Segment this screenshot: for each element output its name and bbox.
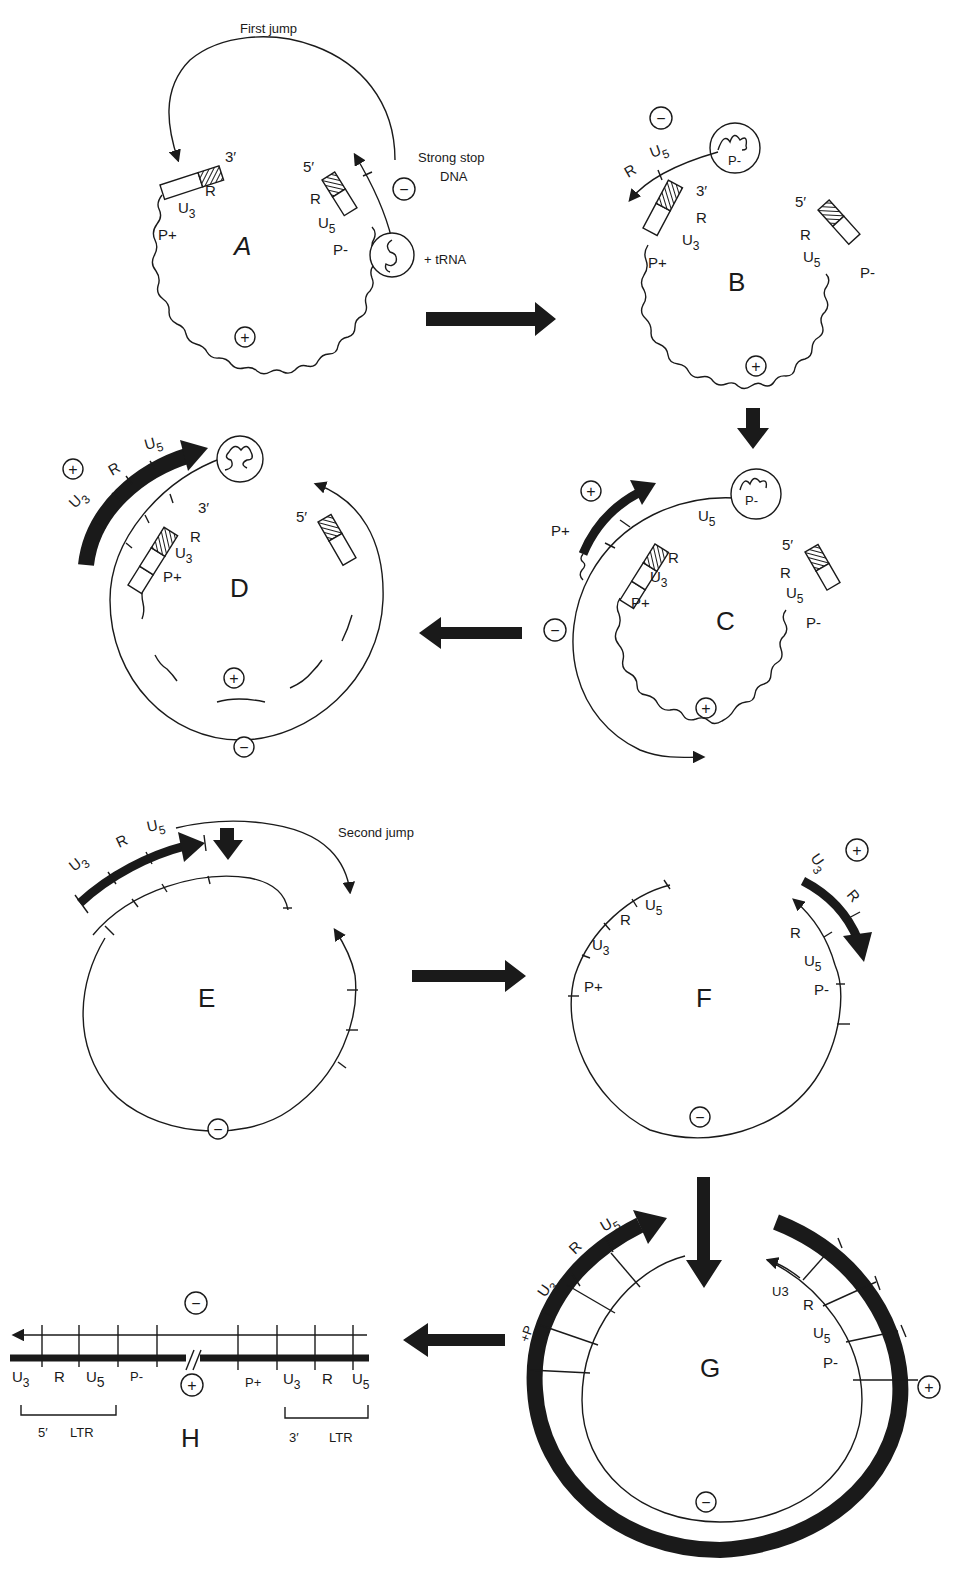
plus-sign-icon: +	[918, 1376, 940, 1398]
five-prime-ltr-bracket	[21, 1405, 116, 1415]
label-u3: U3	[65, 850, 93, 878]
label-r-right-thick: R	[844, 886, 864, 905]
label-5prime: 5′	[303, 158, 314, 175]
strong-stop-dna-strand	[355, 155, 392, 240]
minus-strand-dna	[573, 498, 735, 758]
panel-letter-e: E	[198, 983, 215, 1013]
plus-sign-icon: +	[746, 356, 766, 376]
label-r-right: R	[310, 190, 321, 207]
svg-text:−: −	[656, 110, 665, 127]
minus-sign-icon: −	[690, 1107, 710, 1127]
rna-fragment	[290, 660, 322, 688]
svg-text:+: +	[924, 1379, 933, 1396]
label-u5-right: U5	[804, 952, 822, 974]
rna-fragment	[155, 655, 177, 681]
segment-label: P+	[245, 1375, 261, 1390]
segment-label: U3	[12, 1368, 30, 1390]
panel-letter-c: C	[716, 606, 735, 636]
svg-text:−: −	[239, 739, 248, 756]
down-arrow	[213, 828, 243, 860]
plus-strand-circle-thick	[535, 1222, 901, 1550]
svg-text:+: +	[187, 1377, 196, 1394]
label-p-minus: P-	[806, 614, 821, 631]
five-prime-ltr-box	[818, 200, 860, 244]
plus-sign-icon: +	[224, 668, 244, 688]
label-u5-growing: U5	[647, 139, 671, 166]
segment-label: R	[322, 1370, 333, 1387]
plus-strand-dina-thick	[80, 846, 185, 903]
ltr-left-label: LTR	[70, 1425, 94, 1440]
first-jump-arc	[169, 37, 395, 160]
flow-arrow-g-to-h	[403, 1323, 505, 1357]
svg-text:+: +	[240, 329, 249, 346]
svg-text:+: +	[701, 700, 710, 717]
label-p-plus: P+	[648, 254, 667, 271]
svg-text:−: −	[191, 1295, 200, 1312]
panel-h: U3 R U5 P- P+ U3 R U5 5′ LTR 3′ LTR − + …	[10, 1292, 370, 1453]
label-5prime: 5′	[795, 193, 806, 210]
panel-letter-g: G	[700, 1353, 720, 1383]
label-u5-top: U5	[698, 507, 716, 529]
label-r: R	[668, 549, 679, 566]
minus-sign-icon: −	[208, 1119, 228, 1139]
label-r-right: R	[803, 1296, 814, 1313]
label-r-left: R	[565, 1237, 585, 1257]
strong-stop-label-1: Strong stop	[418, 150, 485, 165]
panel-g: +P U3 R U5 U3 R U5 P- + − G	[517, 1210, 940, 1550]
label-r: R	[205, 182, 216, 199]
label-p-minus: P-	[333, 241, 348, 258]
strong-stop-label-2: DNA	[440, 169, 468, 184]
minus-sign-icon: −	[234, 737, 254, 757]
label-u5: U5	[786, 584, 804, 606]
label-p-plus-new: P+	[551, 522, 570, 539]
panel-letter-h: H	[181, 1423, 200, 1453]
minus-sign-icon: −	[393, 178, 415, 200]
svg-text:−: −	[701, 1494, 710, 1511]
minus-strand-circle	[582, 1256, 862, 1522]
label-3prime: 3′	[225, 148, 236, 165]
segment-label: U5	[86, 1368, 105, 1390]
plus-sign-icon: +	[581, 481, 601, 501]
rna-fragment	[342, 615, 352, 641]
panel-letter-d: D	[230, 573, 249, 603]
minus-sign-icon: −	[696, 1492, 716, 1512]
segment-label: U5	[352, 1370, 370, 1392]
plus-sign-icon: +	[63, 459, 83, 479]
plus-sign-icon: +	[235, 327, 255, 347]
svg-text:+: +	[68, 461, 77, 478]
flow-arrow-a-to-b	[426, 302, 556, 336]
svg-text:+: +	[586, 483, 595, 500]
label-5prime: 5′	[296, 508, 307, 525]
label-r-right: R	[780, 564, 791, 581]
minus-sign-icon: −	[185, 1292, 207, 1314]
five-prime-ltr-box	[322, 172, 357, 216]
label-r-right: R	[800, 226, 811, 243]
label-u3: U3	[650, 568, 668, 590]
rna-fragment	[217, 699, 265, 702]
flow-arrow-b-to-c	[737, 408, 769, 449]
trna-circle	[217, 436, 263, 482]
label-trna: + tRNA	[424, 252, 467, 267]
segment-label: R	[54, 1368, 65, 1385]
rna-genome-wavy	[152, 195, 376, 374]
plus-sign-icon: +	[696, 698, 716, 718]
label-r: R	[696, 209, 707, 226]
label-p-plus: P+	[158, 226, 177, 243]
three-prime-ltr-box	[643, 180, 682, 235]
minus-strand-circle	[83, 938, 356, 1131]
panel-letter-b: B	[728, 267, 745, 297]
label-u5-right: U5	[813, 1324, 831, 1346]
trna-circle	[370, 233, 414, 277]
label-u5-arrow: U5	[142, 432, 165, 458]
segment-label: U3	[283, 1370, 301, 1392]
label-primer: P-	[745, 493, 758, 508]
label-3prime: 3′	[696, 182, 707, 199]
label-r: R	[190, 528, 201, 545]
label-5prime: 5′	[782, 536, 793, 553]
label-p-plus: P+	[584, 978, 603, 995]
label-p-minus: P-	[814, 981, 829, 998]
first-jump-label: First jump	[240, 21, 297, 36]
svg-text:−: −	[695, 1109, 704, 1126]
minus-sign-icon: −	[650, 107, 672, 129]
five-prime-ltr-box	[805, 545, 840, 591]
